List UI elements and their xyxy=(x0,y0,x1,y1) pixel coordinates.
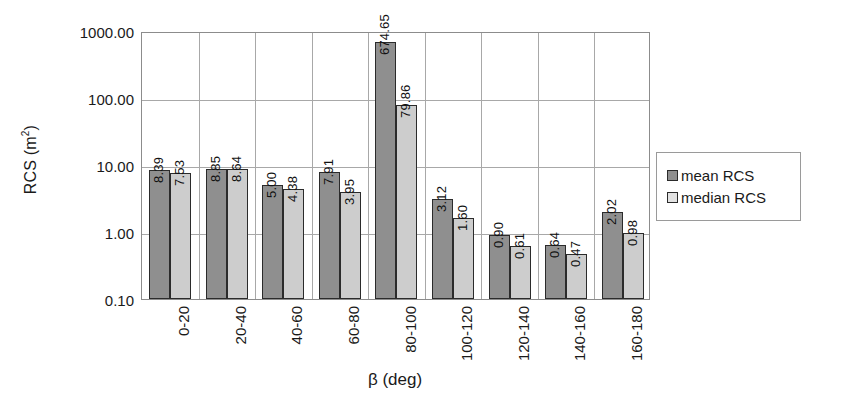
bar-value-label: 1.60 xyxy=(455,205,470,231)
x-axis-tick-label: 40-60 xyxy=(288,306,305,344)
bar-mean-rcs xyxy=(432,199,453,299)
bar-group: 0.900.61 xyxy=(481,33,538,299)
plot-area: 8.397.538.858.645.004.387.913.95674.6579… xyxy=(141,32,650,300)
bar-median-rcs xyxy=(283,189,304,299)
bar-mean-rcs xyxy=(319,172,340,299)
x-axis-title: β (deg) xyxy=(0,370,790,390)
bar-value-label: 0.90 xyxy=(491,222,506,248)
bar-value-label: 2.02 xyxy=(604,198,619,224)
y-axis-tick-labels: 1000.00100.0010.001.000.10 xyxy=(48,0,134,414)
bar-median-rcs xyxy=(170,173,191,299)
x-axis-tick-label: 60-80 xyxy=(345,306,362,344)
legend-swatch-median xyxy=(667,192,678,203)
bar-mean-rcs xyxy=(206,169,227,299)
bar-value-label: 0.47 xyxy=(568,241,583,267)
y-axis-tick-label: 100.00 xyxy=(52,91,134,108)
bar-value-label: 8.39 xyxy=(151,157,166,183)
x-axis-tick-label: 160-180 xyxy=(628,306,645,361)
y-axis-title-close: ) xyxy=(22,125,39,131)
y-axis-title: RCS (m2) xyxy=(20,105,39,215)
x-axis-tick-label: 0-20 xyxy=(175,306,192,336)
bar-value-label: 7.53 xyxy=(172,160,187,186)
legend-item: mean RCS xyxy=(667,167,800,184)
bar-median-rcs xyxy=(227,169,248,299)
bar-median-rcs xyxy=(396,105,417,299)
bar-value-label: 0.98 xyxy=(625,219,640,245)
bar-group: 674.6579.86 xyxy=(368,33,425,299)
legend-label: median RCS xyxy=(681,189,766,206)
bar-value-label: 8.85 xyxy=(208,155,223,181)
bar-group: 3.121.60 xyxy=(425,33,482,299)
x-axis-tick-label: 140-160 xyxy=(571,306,588,361)
bar-value-label: 3.95 xyxy=(342,179,357,205)
y-axis-tick-label: 10.00 xyxy=(52,158,134,175)
y-axis-title-main: RCS (m xyxy=(22,136,39,194)
x-axis-tick-label: 20-40 xyxy=(232,306,249,344)
bar-value-label: 0.64 xyxy=(547,232,562,258)
bar-median-rcs xyxy=(340,192,361,299)
y-axis-tick-label: 1000.00 xyxy=(52,24,134,41)
x-axis-tick-label: 100-120 xyxy=(458,306,475,361)
bar-mean-rcs xyxy=(375,42,396,299)
y-axis-title-exponent: 2 xyxy=(20,131,31,137)
chart-legend: mean RCSmedian RCS xyxy=(656,152,801,221)
x-axis-tick-labels: 0-2020-4040-6060-8080-100100-120120-1401… xyxy=(141,300,650,380)
bar-value-label: 3.12 xyxy=(434,186,449,212)
bar-group: 7.913.95 xyxy=(312,33,369,299)
bar-group: 2.020.98 xyxy=(594,33,651,299)
bar-value-label: 5.00 xyxy=(264,172,279,198)
bar-value-label: 4.38 xyxy=(285,176,300,202)
x-axis-tick-label: 120-140 xyxy=(515,306,532,361)
bar-value-label: 7.91 xyxy=(321,159,336,185)
y-axis-tick-label: 0.10 xyxy=(52,292,134,309)
rcs-bar-chart: RCS (m2) 1000.00100.0010.001.000.10 8.39… xyxy=(0,0,843,414)
bar-group: 5.004.38 xyxy=(255,33,312,299)
bar-value-label: 79.86 xyxy=(398,84,413,118)
bar-group: 8.397.53 xyxy=(142,33,199,299)
bar-group: 0.640.47 xyxy=(538,33,595,299)
bar-value-label: 0.61 xyxy=(512,233,527,259)
legend-swatch-mean xyxy=(667,170,678,181)
bar-mean-rcs xyxy=(262,185,283,299)
bar-value-label: 674.65 xyxy=(377,14,392,55)
legend-label: mean RCS xyxy=(681,167,754,184)
y-axis-tick-label: 1.00 xyxy=(52,225,134,242)
bar-group: 8.858.64 xyxy=(199,33,256,299)
bar-value-label: 8.64 xyxy=(229,156,244,182)
bar-mean-rcs xyxy=(149,170,170,299)
x-axis-tick-label: 80-100 xyxy=(402,306,419,353)
legend-item: median RCS xyxy=(667,189,800,206)
